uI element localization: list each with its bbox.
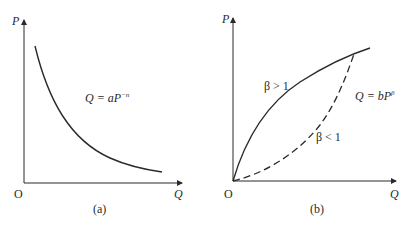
panel-b-y-axis-label: P [222,13,229,25]
panel-b-caption: (b) [310,203,324,215]
panel-a-caption: (a) [93,203,106,215]
panel-b-origin-label: O [224,188,233,200]
panel-b-beta-greater-label: β > 1 [264,80,289,92]
panel-a-demand-curve [35,46,162,172]
panel-a-x-axis-label: Q [174,188,183,200]
panel-b-curve-beta-less-than-one [233,54,354,181]
panel-b-beta-less-label: β < 1 [316,131,341,143]
panel-b-x-axis-label: Q [390,188,399,200]
panel-b-equation: Q = bPβ [355,90,395,102]
panel-a-equation-exponent: −n [121,91,129,99]
panel-a-y-axis-label: P [12,15,19,27]
diagram-canvas [0,0,415,227]
panel-b-equation-exponent: β [391,89,395,97]
panel-a-origin-label: O [14,188,23,200]
panel-a-equation: Q = aP−n [85,92,129,104]
panel-b-equation-base: Q = bP [355,89,391,103]
panel-a-equation-base: Q = aP [85,91,121,105]
